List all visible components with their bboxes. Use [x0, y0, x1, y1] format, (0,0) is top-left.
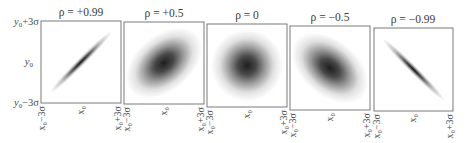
- x-tick-mid: x₀: [241, 110, 252, 119]
- x-tick-mid: x₀: [75, 106, 86, 115]
- panel-rho-plus-0-99: ρ = +0.99: [41, 6, 121, 103]
- x-tick-mid: x₀: [407, 114, 418, 123]
- panel-rho-minus-0-5: ρ = −0.5: [278, 11, 381, 118]
- density-ellipse: [211, 30, 283, 102]
- y-tick-mid: y0: [24, 56, 34, 69]
- panel-title: ρ = 0: [235, 9, 259, 22]
- panel-title: ρ = +0.99: [59, 6, 104, 19]
- x-tick-mid: x₀: [324, 113, 335, 122]
- x-tick-left: x₀−3σ: [204, 109, 215, 134]
- panel-title: ρ = +0.5: [145, 7, 184, 20]
- y-tick-top: y0+3σ: [13, 16, 39, 29]
- x-tick-right: x₀+3σ: [444, 113, 455, 138]
- x-tick-left: x₀−3σ: [371, 113, 382, 138]
- x-tick-left: x₀−3σ: [121, 106, 132, 131]
- panel-rho-plus-0-5: ρ = +0.5: [112, 7, 215, 113]
- panel-rho-minus-0-99: ρ = −0.99: [374, 13, 453, 111]
- correlation-figure: ρ = +0.99 ρ = +0.5 ρ = 0 ρ = −0.5 ρ = −0…: [0, 0, 469, 143]
- panel-rho-0: ρ = 0: [207, 9, 287, 107]
- x-tick-mid: x₀: [158, 107, 169, 116]
- x-tick-left: x₀−3σ: [36, 105, 47, 130]
- panel-title: ρ = −0.5: [311, 11, 350, 24]
- panel-title: ρ = −0.99: [391, 13, 436, 26]
- x-tick-left: x₀−3σ: [287, 112, 298, 137]
- y-axis-labels: y0+3σ y0 y0−3σ: [13, 16, 39, 110]
